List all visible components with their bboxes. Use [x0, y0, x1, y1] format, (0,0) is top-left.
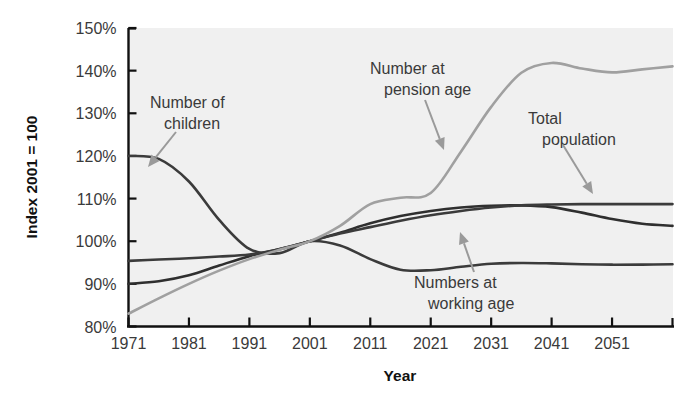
- y-tick-label-130%: 130%: [76, 105, 117, 122]
- x-tick-label-2001: 2001: [292, 335, 328, 352]
- y-tick-label-120%: 120%: [76, 148, 117, 165]
- x-tick-label-1991: 1991: [232, 335, 268, 352]
- x-tick-label-1971: 1971: [111, 335, 147, 352]
- y-tick-label-100%: 100%: [76, 233, 117, 250]
- x-tick-label-2051: 2051: [594, 335, 630, 352]
- y-tick-label-150%: 150%: [76, 20, 117, 37]
- y-tick-label-80%: 80%: [84, 319, 116, 336]
- x-tick-label-2041: 2041: [534, 335, 570, 352]
- y-tick-label-90%: 90%: [84, 276, 116, 293]
- chart-canvas: 80%90%100%110%120%130%140%150% 197119811…: [0, 0, 689, 394]
- x-tick-label-2021: 2021: [413, 335, 449, 352]
- y-tick-label-110%: 110%: [77, 191, 117, 208]
- x-tick-label-1981: 1981: [171, 335, 207, 352]
- x-axis-title: Year: [384, 367, 417, 384]
- y-axis-title: Index 2001 = 100: [23, 116, 40, 239]
- x-tick-label-2011: 2011: [353, 335, 388, 352]
- x-tick-label-2031: 2031: [473, 335, 509, 352]
- population-index-line-chart: 80%90%100%110%120%130%140%150% 197119811…: [0, 0, 689, 394]
- y-axis-tick-labels: 80%90%100%110%120%130%140%150%: [76, 20, 117, 336]
- x-axis-tick-labels: 197119811991200120112021203120412051: [111, 335, 630, 352]
- y-tick-label-140%: 140%: [76, 63, 117, 80]
